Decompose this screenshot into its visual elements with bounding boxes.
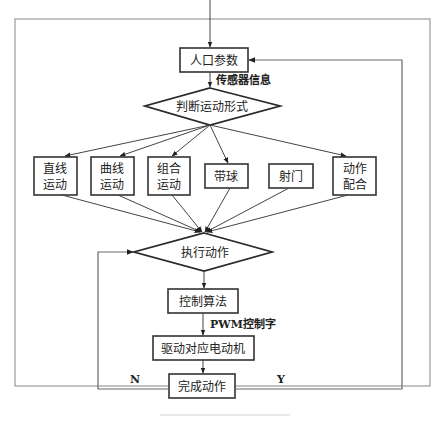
node-execute-action: 执行动作 — [134, 233, 272, 271]
motion-box-5-label: 射门 — [279, 169, 303, 184]
edge-label-sensor-info: 传感器信息 — [215, 73, 271, 87]
node-drive-motor: 驱动对应电动机 — [153, 336, 254, 360]
node-execute-action-label: 执行动作 — [181, 246, 229, 260]
edge-motion-3-to-execute — [172, 195, 202, 232]
node-complete-action: 完成动作 — [169, 374, 235, 398]
node-complete-action-label: 完成动作 — [178, 379, 226, 394]
motion-box-1-line2: 运动 — [43, 178, 67, 192]
motion-box-3-line2: 运动 — [157, 178, 181, 192]
motion-box-4-label: 带球 — [214, 170, 238, 184]
edge-label-pwm: PWM控制字 — [210, 317, 276, 331]
motion-box-4: 带球 — [205, 164, 248, 188]
flowchart-figure: 人口参数 传感器信息 判断运动形式 直线 运动 曲线 运动 组合 运动 带球 射… — [0, 0, 444, 422]
motion-box-6-line1: 动作 — [343, 162, 367, 176]
edge-judge-to-motion-6 — [210, 125, 346, 156]
edge-motion-5-to-execute — [206, 188, 289, 232]
motion-box-2-line2: 运动 — [100, 178, 124, 192]
edge-judge-to-motion-1 — [65, 125, 210, 156]
motion-box-5: 射门 — [269, 164, 313, 188]
motion-box-1: 直线 运动 — [34, 157, 77, 195]
edge-label-yes: Y — [276, 373, 285, 386]
node-input-params-label: 人口参数 — [190, 53, 238, 68]
edge-motion-6-to-execute — [207, 195, 348, 232]
motion-box-2-line1: 曲线 — [100, 162, 124, 176]
motion-box-2: 曲线 运动 — [91, 157, 134, 195]
node-judge-motion-label: 判断运动形式 — [176, 99, 248, 114]
node-control-algorithm: 控制算法 — [168, 289, 238, 313]
edge-no-loop — [98, 252, 169, 389]
motion-box-3: 组合 运动 — [148, 157, 190, 195]
motion-box-6-line2: 配合 — [343, 177, 367, 192]
edge-label-no: N — [130, 373, 140, 386]
edge-judge-to-motion-2 — [120, 125, 210, 156]
edge-judge-to-motion-4 — [210, 125, 228, 163]
motion-box-1-line1: 直线 — [43, 162, 67, 176]
node-input-params: 人口参数 — [180, 48, 248, 72]
motion-box-3-line1: 组合 — [157, 161, 181, 176]
flowchart-canvas: 人口参数 传感器信息 判断运动形式 直线 运动 曲线 运动 组合 运动 带球 射… — [0, 0, 444, 422]
edge-judge-to-motion-3 — [172, 125, 210, 156]
motion-box-6: 动作 配合 — [333, 157, 376, 195]
node-judge-motion: 判断运动形式 — [145, 88, 280, 125]
node-control-algorithm-label: 控制算法 — [179, 294, 227, 309]
node-drive-motor-label: 驱动对应电动机 — [161, 341, 245, 356]
